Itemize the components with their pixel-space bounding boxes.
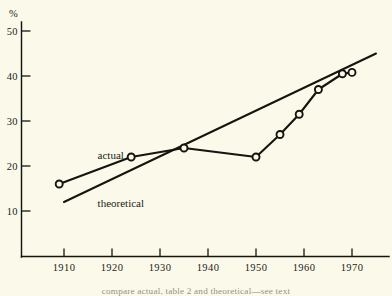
- data-point-marker: [339, 70, 346, 77]
- x-tick-label-1920: 1920: [101, 262, 124, 273]
- actual-series-markers: [56, 69, 356, 188]
- data-point-marker: [181, 145, 188, 152]
- x-tick-label-1960: 1960: [293, 262, 316, 273]
- x-tick-label-1930: 1930: [149, 262, 172, 273]
- x-tick-label-1970: 1970: [341, 262, 364, 273]
- line-chart: % 1020304050 191019201930194019501960197…: [0, 0, 392, 296]
- y-axis-tick-labels: 1020304050: [7, 26, 18, 217]
- axes-group: [22, 22, 390, 257]
- data-point-marker: [253, 154, 260, 161]
- data-point-marker: [315, 86, 322, 93]
- data-point-marker: [349, 69, 356, 76]
- y-tick-label-40: 40: [7, 71, 18, 82]
- series-annotations: actualtheoretical: [98, 149, 144, 208]
- data-point-marker: [277, 131, 284, 138]
- y-tick-label-50: 50: [7, 26, 18, 37]
- data-point-marker: [128, 154, 135, 161]
- x-tick-label-1910: 1910: [53, 262, 76, 273]
- x-axis-tick-labels: 1910192019301940195019601970: [53, 262, 364, 273]
- series-label-actual: actual: [98, 149, 124, 161]
- x-tick-label-1940: 1940: [197, 262, 220, 273]
- y-tick-label-20: 20: [7, 161, 18, 172]
- data-point-marker: [296, 111, 303, 118]
- data-point-marker: [56, 181, 63, 188]
- y-axis-ticks: [22, 31, 31, 211]
- x-tick-label-1950: 1950: [245, 262, 268, 273]
- y-tick-label-30: 30: [7, 116, 18, 127]
- y-axis-unit-label: %: [9, 8, 18, 19]
- figure-caption: compare actual, table 2 and theoretical—…: [0, 285, 392, 296]
- figure-container: % 1020304050 191019201930194019501960197…: [0, 0, 392, 296]
- series-label-theoretical: theoretical: [98, 197, 144, 209]
- actual-series-line: [59, 72, 352, 184]
- y-tick-label-10: 10: [7, 206, 18, 217]
- x-axis-ticks: [64, 249, 352, 257]
- theoretical-series-line: [64, 54, 376, 203]
